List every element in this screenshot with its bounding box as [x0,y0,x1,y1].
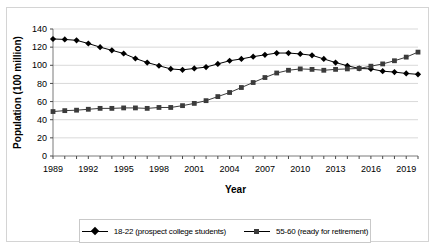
legend-entry-retirement: 55-60 (ready for retirement) [244,227,368,236]
legend-label-retirement: 55-60 (ready for retirement) [276,227,368,236]
svg-text:0: 0 [42,151,47,161]
chart-screenshot: 0204060801001201401989199219951998200120… [0,0,435,249]
svg-text:2010: 2010 [290,164,310,174]
svg-text:1989: 1989 [43,164,63,174]
svg-text:40: 40 [37,115,47,125]
svg-text:2013: 2013 [326,164,346,174]
line-chart: 0204060801001201401989199219951998200120… [7,8,430,243]
svg-text:2007: 2007 [255,164,275,174]
svg-text:2004: 2004 [220,164,240,174]
legend-entry-students: 18-22 (prospect college students) [82,227,226,236]
svg-text:1995: 1995 [114,164,134,174]
svg-text:2019: 2019 [396,164,416,174]
svg-text:Year: Year [225,184,246,195]
svg-text:80: 80 [37,79,47,89]
svg-text:140: 140 [32,24,47,34]
svg-text:20: 20 [37,133,47,143]
svg-text:1992: 1992 [78,164,98,174]
svg-text:1998: 1998 [149,164,169,174]
figure-frame: 0204060801001201401989199219951998200120… [6,7,429,242]
square-marker-icon [244,227,270,236]
legend-label-students: 18-22 (prospect college students) [114,227,226,236]
svg-text:2016: 2016 [361,164,381,174]
chart-legend: 18-22 (prospect college students) 55-60 … [79,219,371,243]
svg-text:60: 60 [37,97,47,107]
diamond-marker-icon [82,227,108,236]
svg-text:120: 120 [32,42,47,52]
svg-text:100: 100 [32,60,47,70]
svg-text:Population (100 million): Population (100 million) [12,36,23,149]
svg-text:2001: 2001 [184,164,204,174]
